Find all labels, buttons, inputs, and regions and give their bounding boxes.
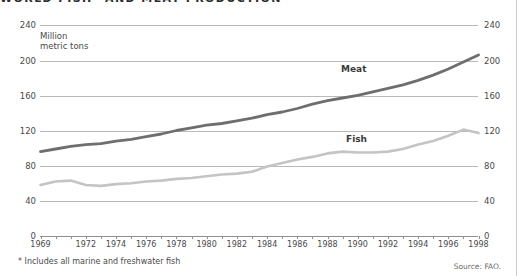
meat-series-line (41, 55, 479, 152)
fish-series-line (41, 130, 479, 186)
chart-footnote: * Includes all marine and freshwater fis… (18, 257, 180, 266)
chart-source: Source: FAO. (454, 262, 501, 271)
meat-series-label: Meat (339, 64, 368, 74)
series-plot-area (0, 0, 517, 276)
fish-series-label: Fish (344, 134, 369, 144)
chart-figure: WORLD FISH* AND MEAT PRODUCTION Million … (0, 0, 517, 276)
